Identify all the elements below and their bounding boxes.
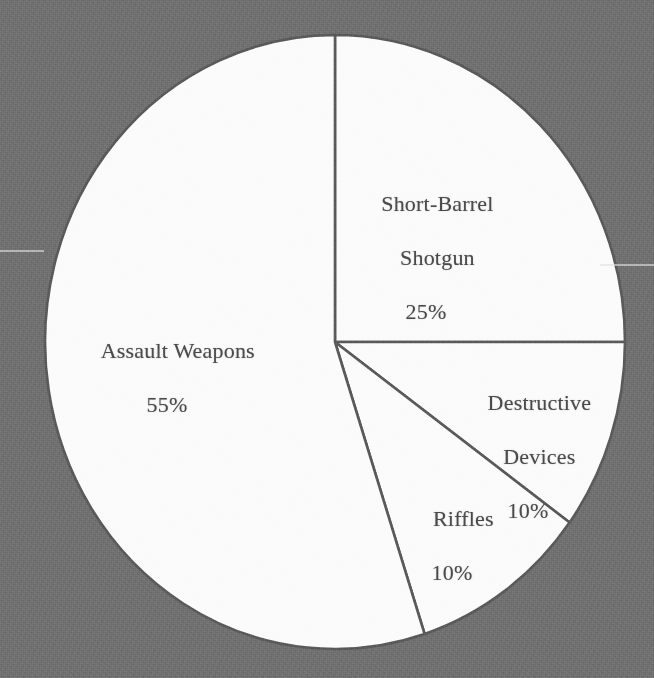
pie-label-riffles-line1: Riffles xyxy=(433,506,494,531)
pie-chart-figure: Short-Barrel Shotgun 25% Assault Weapons… xyxy=(0,0,654,678)
pie-label-short-barrel-shotgun: Short-Barrel Shotgun 25% xyxy=(352,163,500,379)
pie-label-assault-weapons: Assault Weapons 55% xyxy=(62,310,272,472)
pie-label-assault-weapons-line1: Assault Weapons xyxy=(101,338,255,363)
pie-label-assault-weapons-percent: 55% xyxy=(62,391,272,418)
pie-label-riffles-percent: 10% xyxy=(392,559,512,586)
pie-label-short-barrel-shotgun-line1: Short-Barrel xyxy=(381,191,493,216)
pie-label-destructive-devices-line1: Destructive xyxy=(488,390,592,415)
pie-label-riffles: Riffles 10% xyxy=(392,478,512,640)
pie-label-short-barrel-shotgun-percent: 25% xyxy=(352,298,500,325)
pie-label-short-barrel-shotgun-line2: Shotgun xyxy=(400,245,475,270)
pie-label-destructive-devices-line2: Devices xyxy=(503,444,575,469)
